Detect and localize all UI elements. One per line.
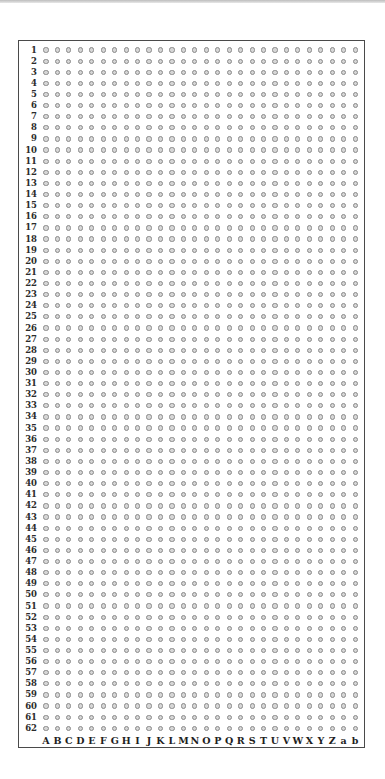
grid-dot xyxy=(330,470,335,475)
grid-dot xyxy=(43,214,48,219)
grid-dot xyxy=(55,514,60,519)
grid-dot xyxy=(43,592,48,597)
grid-dot xyxy=(135,470,140,475)
grid-dot xyxy=(66,659,71,664)
grid-dot xyxy=(181,203,186,208)
grid-dot xyxy=(284,481,289,486)
grid-dot xyxy=(66,559,71,564)
grid-dot xyxy=(227,526,232,531)
grid-dot xyxy=(66,459,71,464)
grid-dot xyxy=(43,192,48,197)
grid-dot xyxy=(181,615,186,620)
grid-dot xyxy=(295,548,300,553)
grid-dot xyxy=(158,537,163,542)
grid-dot xyxy=(124,259,129,264)
grid-dot xyxy=(261,681,266,686)
grid-dot xyxy=(341,103,346,108)
grid-dot xyxy=(272,548,277,553)
grid-dot xyxy=(330,659,335,664)
grid-dot xyxy=(204,81,209,86)
grid-dot xyxy=(295,214,300,219)
grid-dot xyxy=(181,548,186,553)
column-label: K xyxy=(155,735,167,746)
grid-dot xyxy=(89,603,94,608)
grid-dot xyxy=(353,681,358,686)
grid-dot xyxy=(192,403,197,408)
grid-dot xyxy=(204,325,209,330)
grid-dot xyxy=(318,481,323,486)
grid-dot xyxy=(341,203,346,208)
grid-dot xyxy=(307,81,312,86)
grid-dot xyxy=(353,236,358,241)
grid-dot xyxy=(215,159,220,164)
grid-dot xyxy=(192,681,197,686)
grid-dot xyxy=(250,248,255,253)
grid-dot xyxy=(78,125,83,130)
grid-dot xyxy=(158,559,163,564)
grid-dot xyxy=(192,648,197,653)
grid-dot xyxy=(295,136,300,141)
grid-dot xyxy=(250,203,255,208)
grid-dot xyxy=(215,81,220,86)
grid-dot xyxy=(101,626,106,631)
grid-dot xyxy=(66,703,71,708)
row-label: 62 xyxy=(21,723,37,733)
grid-dot xyxy=(192,281,197,286)
grid-dot xyxy=(169,125,174,130)
grid-dot xyxy=(307,248,312,253)
grid-dot xyxy=(146,359,151,364)
grid-dot xyxy=(330,181,335,186)
grid-dot xyxy=(135,692,140,697)
grid-dot xyxy=(55,325,60,330)
grid-dot xyxy=(204,592,209,597)
grid-dot xyxy=(55,648,60,653)
grid-dot xyxy=(261,615,266,620)
grid-dot xyxy=(341,303,346,308)
grid-dot xyxy=(330,459,335,464)
grid-dot xyxy=(89,526,94,531)
grid-dot xyxy=(112,203,117,208)
grid-dot xyxy=(101,715,106,720)
grid-dot xyxy=(318,659,323,664)
grid-dot xyxy=(101,670,106,675)
grid-dot xyxy=(43,359,48,364)
grid-dot xyxy=(295,92,300,97)
grid-dot xyxy=(158,726,163,731)
row-label: 58 xyxy=(21,678,37,688)
grid-dot xyxy=(112,537,117,542)
grid-dot xyxy=(169,526,174,531)
grid-dot xyxy=(101,659,106,664)
grid-dot xyxy=(78,437,83,442)
grid-dot xyxy=(146,403,151,408)
column-label: a xyxy=(338,735,350,746)
grid-dot xyxy=(89,325,94,330)
grid-dot xyxy=(192,503,197,508)
grid-dot xyxy=(284,592,289,597)
grid-dot xyxy=(101,514,106,519)
row-label: 40 xyxy=(21,478,37,488)
grid-dot xyxy=(89,259,94,264)
grid-dot xyxy=(135,559,140,564)
grid-dot xyxy=(238,670,243,675)
grid-dot xyxy=(272,648,277,653)
grid-dot xyxy=(295,414,300,419)
grid-dot xyxy=(261,603,266,608)
grid-dot xyxy=(169,325,174,330)
grid-dot xyxy=(227,537,232,542)
grid-dot xyxy=(215,703,220,708)
grid-dot xyxy=(66,581,71,586)
grid-dot xyxy=(181,337,186,342)
grid-dot xyxy=(89,726,94,731)
grid-dot xyxy=(238,470,243,475)
grid-dot xyxy=(284,670,289,675)
grid-dot xyxy=(318,448,323,453)
grid-dot xyxy=(238,503,243,508)
grid-dot xyxy=(215,537,220,542)
row-label: 31 xyxy=(21,378,37,388)
grid-dot xyxy=(238,659,243,664)
grid-dot xyxy=(112,414,117,419)
grid-dot xyxy=(204,59,209,64)
grid-dot xyxy=(307,292,312,297)
grid-dot xyxy=(181,281,186,286)
grid-dot xyxy=(192,692,197,697)
